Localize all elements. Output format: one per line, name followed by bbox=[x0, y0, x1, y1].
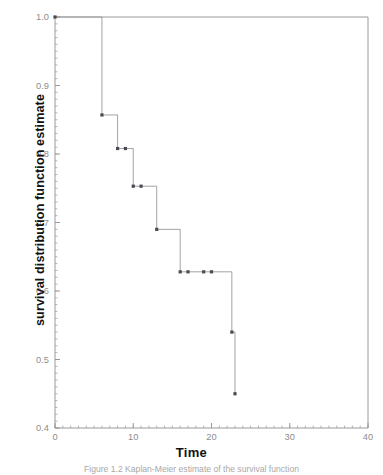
data-point-marker bbox=[124, 147, 127, 150]
data-point-marker bbox=[233, 392, 236, 395]
figure-container: 0.40.50.60.70.80.91.0010203040 survival … bbox=[0, 0, 383, 475]
data-point-marker bbox=[179, 270, 182, 273]
data-point-marker bbox=[202, 270, 205, 273]
x-tick-label: 0 bbox=[52, 432, 57, 442]
data-point-marker bbox=[155, 228, 158, 231]
data-point-marker bbox=[132, 185, 135, 188]
data-point-marker bbox=[116, 147, 119, 150]
x-axis-ticks: 010203040 bbox=[52, 423, 373, 442]
x-tick-label: 20 bbox=[206, 432, 216, 442]
y-axis-title: survival distribution function estimate bbox=[33, 10, 47, 410]
figure-caption: Figure 1.2 Kaplan-Meier estimate of the … bbox=[0, 464, 383, 474]
data-point-marker bbox=[230, 331, 233, 334]
data-point-markers bbox=[53, 15, 236, 395]
data-point-marker bbox=[186, 270, 189, 273]
x-tick-label: 10 bbox=[128, 432, 138, 442]
x-tick-label: 40 bbox=[363, 432, 373, 442]
survival-chart: 0.40.50.60.70.80.91.0010203040 bbox=[0, 0, 383, 475]
x-axis-title: Time bbox=[0, 445, 383, 460]
data-point-marker bbox=[100, 113, 103, 116]
survival-step-line bbox=[55, 17, 235, 394]
x-tick-label: 30 bbox=[285, 432, 295, 442]
data-point-marker bbox=[53, 15, 56, 18]
y-tick-label: 0.4 bbox=[36, 423, 49, 433]
data-point-marker bbox=[139, 185, 142, 188]
data-point-marker bbox=[210, 270, 213, 273]
